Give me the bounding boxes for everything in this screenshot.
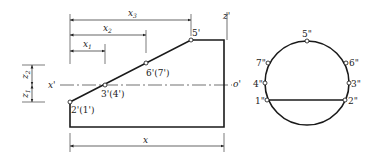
- axis-label-x: x': [48, 80, 56, 90]
- point-5: [189, 38, 193, 42]
- dim-x3-label: x3: [128, 8, 137, 19]
- label-4: 4": [253, 79, 263, 89]
- label-6: 6": [349, 58, 359, 68]
- label-1: 1": [255, 96, 265, 106]
- point-7: [266, 61, 270, 65]
- axis-label-o: o': [233, 79, 241, 89]
- point-6-7: [144, 61, 148, 65]
- point-3-4: [103, 83, 107, 87]
- side-circle: [265, 41, 349, 125]
- dim-x2-label: x2: [103, 23, 112, 34]
- label-7: 7": [256, 58, 266, 68]
- label-3: 3": [351, 79, 361, 89]
- point-6: [344, 61, 348, 65]
- label-2: 2": [348, 96, 358, 106]
- point-2: [343, 98, 347, 102]
- point-1: [265, 98, 269, 102]
- dim-x-label: x: [143, 135, 148, 145]
- dim-z1-label: z1: [20, 89, 31, 99]
- front-view: x3 x2 x1 x z2 z1 x' o' z' 5' 6'(7') 3'(4…: [20, 8, 241, 152]
- dim-z2-label: z2: [20, 70, 31, 80]
- side-view: 5" 7" 6" 4" 3" 1" 2": [253, 29, 361, 125]
- label-3-4: 3'(4'): [101, 89, 124, 99]
- label-5: 5': [192, 28, 200, 38]
- point-2-1: [68, 100, 72, 104]
- axis-label-z: z': [222, 11, 230, 21]
- label-5: 5": [302, 29, 312, 39]
- label-2-1: 2'(1'): [71, 105, 94, 115]
- label-6-7: 6'(7'): [146, 68, 169, 78]
- projection-diagram: x3 x2 x1 x z2 z1 x' o' z' 5' 6'(7') 3'(4…: [0, 0, 381, 166]
- point-5: [305, 39, 309, 43]
- dim-x1-label: x1: [83, 39, 92, 50]
- point-4: [263, 81, 267, 85]
